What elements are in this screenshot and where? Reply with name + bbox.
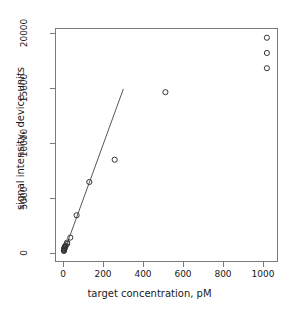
x-tick-label: 600 <box>161 269 205 279</box>
x-tick-mark <box>183 262 184 267</box>
x-tick-mark <box>103 262 104 267</box>
x-tick-label: 200 <box>81 269 125 279</box>
x-tick-label: 0 <box>41 269 85 279</box>
y-tick-mark <box>50 198 55 199</box>
data-point <box>264 50 269 55</box>
data-layer <box>56 29 277 261</box>
plot-frame <box>55 28 278 262</box>
data-point <box>163 90 168 95</box>
data-point <box>264 35 269 40</box>
y-tick-mark <box>50 143 55 144</box>
x-tick-label: 1000 <box>241 269 285 279</box>
x-tick-mark <box>263 262 264 267</box>
y-tick-mark <box>50 253 55 254</box>
fit-line <box>64 89 123 252</box>
x-axis-title: target concentration, pM <box>0 288 299 299</box>
x-tick-mark <box>63 262 64 267</box>
y-axis-title: signal intensity, device units <box>15 14 26 264</box>
data-point <box>112 157 117 162</box>
data-point <box>264 66 269 71</box>
x-tick-label: 400 <box>121 269 165 279</box>
x-tick-label: 800 <box>201 269 245 279</box>
x-tick-mark <box>143 262 144 267</box>
y-tick-mark <box>50 33 55 34</box>
scatter-plot-figure: 02004006008001000 05000100001500020000 t… <box>0 0 299 316</box>
x-tick-mark <box>223 262 224 267</box>
y-tick-mark <box>50 88 55 89</box>
